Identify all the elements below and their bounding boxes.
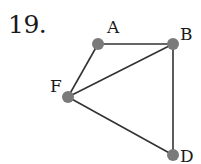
node-a (92, 38, 104, 50)
graph-diagram: ABFD (0, 0, 201, 164)
node-d (167, 149, 179, 161)
node-label-b: B (180, 24, 193, 44)
node-label-d: D (180, 146, 194, 164)
edge-f-d (68, 97, 173, 155)
graph-edges (68, 44, 173, 155)
node-b (167, 38, 179, 50)
node-label-f: F (50, 76, 62, 96)
node-label-a: A (106, 17, 120, 37)
graph-nodes (62, 38, 179, 161)
node-f (62, 91, 74, 103)
